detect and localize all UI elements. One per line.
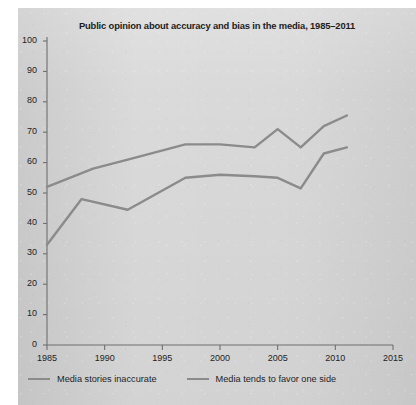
x-axis-tick-label: 1985 (27, 353, 67, 363)
y-axis-tick-label: 70 (11, 126, 37, 136)
chart-legend: Media stories inaccurate Media tends to … (28, 370, 416, 388)
chart-panel: Public opinion about accuracy and bias i… (18, 8, 416, 405)
y-axis-tick-label: 20 (11, 278, 37, 288)
x-axis-tick-label: 1990 (85, 353, 125, 363)
y-axis-tick-label: 10 (11, 308, 37, 318)
plot-svg (18, 8, 416, 405)
plot-area: 0102030405060708090100198519901995200020… (18, 8, 416, 405)
y-axis-tick-label: 60 (11, 156, 37, 166)
legend-item-media-stories-inaccurate: Media stories inaccurate (28, 374, 157, 384)
legend-label: Media stories inaccurate (57, 374, 157, 384)
y-axis-tick-label: 50 (11, 187, 37, 197)
legend-line-swatch-icon (28, 378, 50, 381)
y-axis-tick-label: 30 (11, 247, 37, 257)
y-axis-tick-label: 90 (11, 65, 37, 75)
y-axis-tick-label: 0 (11, 339, 37, 349)
legend-line-swatch-icon (187, 378, 209, 381)
legend-item-media-tends-to-favor-one-side: Media tends to favor one side (187, 374, 337, 384)
x-axis-tick-label: 2015 (373, 353, 413, 363)
y-axis-tick-label: 80 (11, 95, 37, 105)
x-axis-tick-label: 2005 (258, 353, 298, 363)
y-axis-tick-label: 100 (11, 35, 37, 45)
chart-figure: Public opinion about accuracy and bias i… (0, 0, 416, 405)
legend-label: Media tends to favor one side (216, 374, 337, 384)
x-axis-tick-label: 1995 (142, 353, 182, 363)
y-axis-tick-label: 40 (11, 217, 37, 227)
x-axis-tick-label: 2010 (315, 353, 355, 363)
x-axis-tick-label: 2000 (200, 353, 240, 363)
series-line-1 (47, 147, 347, 244)
